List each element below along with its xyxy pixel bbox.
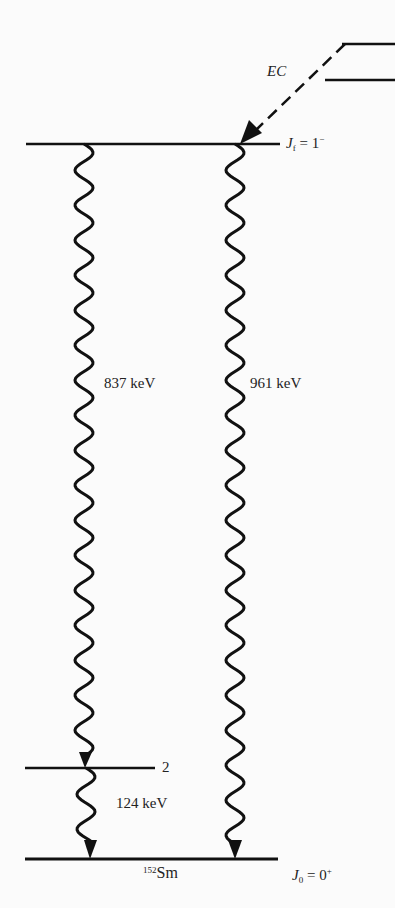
decay-scheme-canvas	[0, 0, 395, 908]
gamma-961-wave	[226, 144, 244, 842]
gamma-837-arrowhead	[79, 752, 92, 768]
level-intermediate-label: 2	[162, 759, 170, 776]
gamma-124-wave	[77, 768, 95, 842]
gamma-124-arrowhead	[84, 840, 97, 859]
level-initial-label: Jf = 1−	[286, 134, 324, 153]
ec-arrow	[240, 44, 345, 144]
gamma-124-label: 124 keV	[116, 795, 167, 812]
nucleus-label: 152Sm	[143, 864, 178, 882]
level-ground-label: J0 = 0+	[292, 866, 332, 885]
gamma-837-label: 837 keV	[104, 375, 155, 392]
gamma-961-label: 961 keV	[250, 375, 301, 392]
gamma-961-arrowhead	[228, 840, 242, 859]
gamma-837-wave	[75, 144, 93, 754]
ec-label: EC	[267, 63, 286, 80]
